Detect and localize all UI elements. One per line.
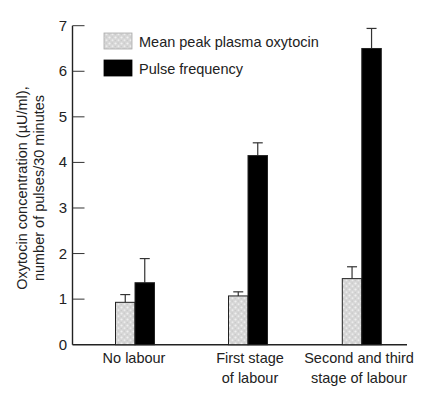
- legend-label: Pulse frequency: [139, 61, 244, 77]
- bar-oxytocin: [342, 267, 362, 345]
- bar-pulse-frequency: [362, 28, 382, 344]
- y-tick-label: 6: [59, 62, 67, 79]
- y-tick-label: 0: [59, 336, 67, 353]
- x-category-label: No labour: [103, 350, 166, 366]
- legend-swatch-speckle: [104, 33, 132, 49]
- bar-pulse-frequency: [248, 143, 268, 345]
- x-category-label: of labour: [222, 370, 279, 386]
- legend-label: Mean peak plasma oxytocin: [139, 34, 319, 50]
- legend-swatch-solid: [104, 60, 132, 76]
- bar-pulse-frequency: [135, 259, 155, 345]
- y-tick-label: 5: [59, 108, 67, 125]
- y-tick-label: 4: [59, 153, 67, 170]
- bar-chart: 01234567 Mean peak plasma oxytocinPulse …: [0, 0, 427, 404]
- legend-item: Mean peak plasma oxytocin: [104, 33, 319, 50]
- y-tick-label: 3: [59, 199, 67, 216]
- bar-oxytocin: [229, 292, 249, 345]
- x-category-label: Second and third: [304, 350, 414, 366]
- y-tick-label: 1: [59, 290, 67, 307]
- legend-item: Pulse frequency: [104, 60, 244, 77]
- x-category-label: stage of labour: [311, 370, 407, 386]
- x-category-label: First stage: [216, 350, 284, 366]
- y-tick-label: 2: [59, 245, 67, 262]
- bar-oxytocin: [116, 295, 136, 345]
- y-tick-label: 7: [59, 17, 67, 34]
- y-axis-label: Oxytocin concentration (µU/ml),: [14, 86, 30, 289]
- legend: Mean peak plasma oxytocinPulse frequency: [104, 33, 319, 77]
- y-axis-label: number of pulses/30 minutes: [31, 95, 47, 281]
